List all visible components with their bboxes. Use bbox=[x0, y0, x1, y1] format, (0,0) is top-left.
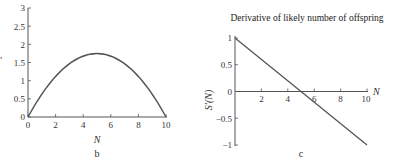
y-tick-label: −1 bbox=[222, 140, 232, 150]
x-tick-label: 2 bbox=[53, 120, 58, 130]
panel-label-c: c bbox=[299, 148, 304, 159]
x-axis-label: N bbox=[93, 134, 102, 145]
curve-s-of-n bbox=[28, 54, 166, 118]
y-tick-label: 1 bbox=[228, 33, 233, 43]
cropped-y-label: , bbox=[0, 50, 2, 60]
y-tick-label: 3 bbox=[21, 3, 26, 13]
y-tick-label: −0.5 bbox=[216, 114, 233, 124]
chart-b: 0 0.5 1 1.5 2 2.5 3 0 2 4 6 8 10 N b bbox=[14, 3, 171, 159]
y-tick-label: 0 bbox=[228, 87, 233, 97]
y-axis-label: S′(N) bbox=[203, 89, 215, 110]
y-tick-label: 1.5 bbox=[14, 58, 26, 68]
y-tick-label: 0.5 bbox=[14, 94, 26, 104]
y-tick-label: 0.5 bbox=[221, 60, 233, 70]
x-tick-label: 4 bbox=[81, 120, 86, 130]
y-tick-label: 0 bbox=[21, 112, 26, 122]
panel-label-b: b bbox=[95, 148, 100, 159]
x-tick-label: 10 bbox=[162, 120, 172, 130]
x-tick-label: 2 bbox=[259, 94, 264, 104]
x-tick-label: 0 bbox=[26, 120, 31, 130]
x-tick-label: 4 bbox=[286, 94, 291, 104]
x-tick-label: 10 bbox=[362, 94, 372, 104]
figure: 0 0.5 1 1.5 2 2.5 3 0 2 4 6 8 10 N b , D… bbox=[0, 0, 393, 165]
y-tick-label: 2 bbox=[21, 40, 26, 50]
y-tick-label: 1 bbox=[21, 76, 26, 86]
chart-c: Derivative of likely number of offspring… bbox=[203, 13, 384, 159]
x-tick-label: 8 bbox=[338, 94, 343, 104]
chart-title: Derivative of likely number of offspring bbox=[230, 13, 383, 23]
x-axis-label: N bbox=[372, 86, 381, 97]
x-tick-label: 6 bbox=[109, 120, 114, 130]
x-tick-label: 8 bbox=[136, 120, 141, 130]
y-tick-label: 2.5 bbox=[14, 22, 26, 32]
